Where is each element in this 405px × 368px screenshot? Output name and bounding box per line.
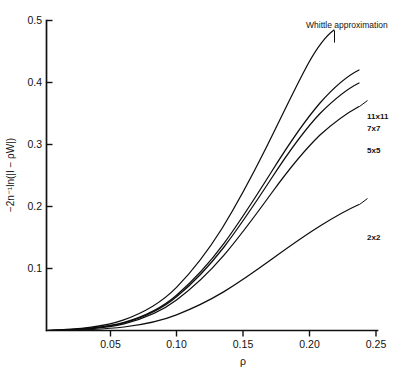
- annotation-2x2: 2x2: [367, 233, 381, 242]
- x-tick-label-0.20: 0.20: [299, 338, 320, 350]
- x-tick-label-0.05: 0.05: [100, 338, 121, 350]
- x-tick-label-0.10: 0.10: [166, 338, 187, 350]
- chart-background: [0, 0, 405, 368]
- x-tick-label-0.15: 0.15: [233, 338, 254, 350]
- y-tick-label-0.5: 0.5: [27, 14, 42, 26]
- line-chart-plot: 0.5 0.4 0.3 0.2 0.1 0.05 0.10 0.15 0.20 …: [0, 0, 405, 368]
- annotation-11x11: 11x11: [367, 112, 389, 121]
- annotation-5x5: 5x5: [367, 146, 381, 155]
- y-axis-title: −2n⁻¹ln(|I − ρW|): [5, 138, 16, 212]
- x-tick-label-0.25: 0.25: [366, 338, 387, 350]
- y-tick-label-0.2: 0.2: [27, 200, 42, 212]
- chart-figure: 0.5 0.4 0.3 0.2 0.1 0.05 0.10 0.15 0.20 …: [0, 0, 405, 368]
- annotation-7x7: 7x7: [367, 124, 381, 133]
- y-tick-label-0.3: 0.3: [27, 138, 42, 150]
- y-tick-label-0.4: 0.4: [27, 76, 42, 88]
- x-axis-title: ρ: [240, 355, 246, 367]
- y-tick-label-0.1: 0.1: [27, 262, 42, 274]
- annotation-whittle-approximation: Whittle approximation: [306, 20, 388, 30]
